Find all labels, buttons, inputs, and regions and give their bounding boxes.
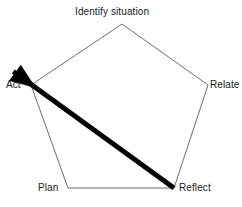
vertex-label-identify-situation: Identify situation xyxy=(75,6,149,17)
diagram-canvas: Identify situation Relate Reflect Plan A… xyxy=(0,0,242,207)
vertex-label-plan: Plan xyxy=(38,182,58,193)
pentagon-diagram xyxy=(0,0,242,207)
vertex-label-reflect: Reflect xyxy=(179,182,211,193)
vertex-label-relate: Relate xyxy=(210,79,240,90)
vertex-label-act: Act xyxy=(6,79,21,90)
